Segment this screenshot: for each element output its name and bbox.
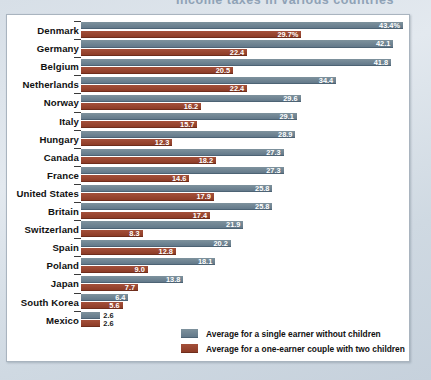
bar-single[interactable]: 28.9 [81,131,295,138]
chart-row: Italy29.115.7 [7,112,411,130]
bar-single[interactable]: 29.6 [81,95,301,102]
category-label-south-korea: South Korea [21,296,79,307]
bar-group: 29.616.2 [81,95,411,111]
axis-tick [74,21,81,22]
axis-tick [74,166,81,167]
bar-single[interactable]: 6.4 [81,294,128,301]
bar-single[interactable]: 20.2 [81,240,231,247]
bar-group: 41.820.5 [81,58,411,74]
bar-single[interactable]: 25.8 [81,203,272,210]
bar-group: 13.87.7 [81,276,411,292]
bar-value-label: 25.8 [255,203,269,210]
bar-value-label: 2.6 [103,320,113,327]
bar-value-label: 12.8 [159,248,173,255]
category-label-mexico: Mexico [46,314,79,325]
axis-tick [74,112,81,113]
chart-row: France27.314.6 [7,166,411,184]
bar-couple[interactable]: 17.4 [81,212,210,219]
bar-couple[interactable]: 22.4 [81,49,247,56]
chart-row: Germany42.122.4 [7,39,411,57]
bar-single[interactable]: 29.1 [81,113,297,120]
bar-single[interactable]: 2.6 [81,312,100,319]
bar-couple[interactable]: 20.5 [81,67,233,74]
category-label-denmark: Denmark [37,25,79,36]
bar-single[interactable]: 13.8 [81,276,183,283]
axis-tick [74,39,81,40]
bar-single[interactable]: 41.8 [81,59,391,66]
chart-title: Income taxes in various countries [176,0,394,7]
bar-couple[interactable]: 8.3 [81,230,143,237]
axis-tick [74,293,81,294]
bar-value-label: 22.4 [230,85,244,92]
bar-single[interactable]: 42.1 [81,40,393,47]
bar-group: 18.19.0 [81,257,411,273]
axis-tick [74,274,81,275]
chart-row: South Korea6.45.6 [7,293,411,311]
category-label-hungary: Hungary [39,133,79,144]
category-label-japan: Japan [51,278,79,289]
category-label-spain: Spain [52,242,79,253]
bar-couple[interactable]: 14.6 [81,175,189,182]
bar-couple[interactable]: 9.0 [81,266,148,273]
axis-tick [74,238,81,239]
bar-value-label: 17.9 [196,193,210,200]
axis-tick [74,202,81,203]
bar-single[interactable]: 43.4% [81,22,403,29]
legend-label-single-earner: Average for a single earner without chil… [206,329,381,339]
bar-value-label: 5.6 [109,302,119,309]
bar-value-label: 27.3 [266,149,280,156]
bar-group: 29.115.7 [81,113,411,129]
bar-group: 6.45.6 [81,294,411,310]
bar-value-label: 21.9 [226,221,240,228]
chart-row: Norway29.616.2 [7,93,411,111]
bar-single[interactable]: 18.1 [81,258,215,265]
bar-single[interactable]: 34.4 [81,77,336,84]
bar-value-label: 34.4 [319,77,333,84]
bar-couple[interactable]: 7.7 [81,284,138,291]
chart-row: United States25.817.9 [7,184,411,202]
bar-group: 27.318.2 [81,149,411,165]
bar-value-label: 7.7 [125,284,135,291]
bar-couple[interactable]: 18.2 [81,157,216,164]
chart-row: Poland18.19.0 [7,256,411,274]
bar-value-label: 41.8 [374,59,388,66]
bar-value-label: 43.4% [379,22,400,29]
bar-couple[interactable]: 12.3 [81,139,172,146]
legend-item-single-earner[interactable]: Average for a single earner without chil… [181,327,407,340]
category-label-britain: Britain [48,206,79,217]
bar-value-label: 29.7% [277,31,298,38]
bar-single[interactable]: 27.3 [81,167,284,174]
axis-tick [74,148,81,149]
bar-group: 2.62.6 [81,312,411,328]
category-label-united-states: United States [16,187,79,198]
axis-tick [74,75,81,76]
bar-value-label: 20.2 [213,240,227,247]
bar-group: 34.422.4 [81,76,411,92]
bar-single[interactable]: 25.8 [81,185,272,192]
chart-row: Hungary28.912.3 [7,130,411,148]
category-label-canada: Canada [44,151,79,162]
axis-tick [74,93,81,94]
bar-group: 27.314.6 [81,167,411,183]
legend-swatch-one-earner-couple [181,344,198,353]
bar-couple[interactable]: 17.9 [81,193,214,200]
bar-couple[interactable]: 5.6 [81,302,123,309]
bar-value-label: 8.3 [129,230,139,237]
bar-single[interactable]: 21.9 [81,221,243,228]
bar-single[interactable]: 27.3 [81,149,284,156]
legend-item-one-earner-couple[interactable]: Average for a one-earner couple with two… [181,342,407,355]
bar-couple[interactable]: 15.7 [81,121,197,128]
bar-value-label: 12.3 [155,139,169,146]
bar-value-label: 9.0 [134,266,144,273]
bar-couple[interactable]: 12.8 [81,248,176,255]
bar-couple[interactable]: 29.7% [81,31,301,38]
chart-row: Japan13.87.7 [7,274,411,292]
bar-couple[interactable]: 22.4 [81,85,247,92]
chart-row: Belgium41.820.5 [7,57,411,75]
bar-couple[interactable]: 2.6 [81,320,100,327]
chart-row: Britain25.817.4 [7,202,411,220]
bar-couple[interactable]: 16.2 [81,103,201,110]
axis-tick [74,184,81,185]
legend-swatch-single-earner [181,329,198,338]
bar-group: 25.817.4 [81,203,411,219]
